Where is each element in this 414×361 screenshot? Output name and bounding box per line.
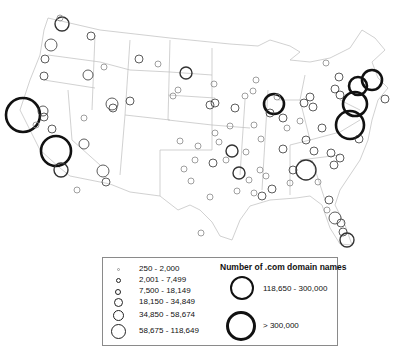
city-circle — [48, 125, 56, 133]
city-circle — [324, 207, 330, 213]
city-circle — [325, 196, 333, 204]
city-circle — [251, 190, 257, 196]
legend-label: 58,675 - 118,649 — [139, 326, 199, 335]
city-circle — [253, 77, 259, 83]
city-circle — [212, 130, 218, 136]
city-circle — [223, 157, 229, 163]
city-circle — [242, 93, 248, 99]
legend-label: > 300,000 — [263, 321, 299, 330]
circle-icon-size-7 — [230, 276, 254, 300]
city-circle — [209, 159, 217, 167]
city-circle — [175, 87, 181, 93]
city-circle — [243, 149, 249, 155]
city-circle — [109, 104, 117, 112]
city-circle — [45, 39, 57, 51]
city-circle — [318, 124, 326, 132]
city-circle — [279, 114, 287, 122]
city-circle — [198, 230, 204, 236]
circle-icon-size-6 — [111, 324, 126, 339]
city-circle — [310, 147, 318, 155]
city-circle — [250, 88, 256, 94]
city-circle — [181, 166, 187, 172]
legend-title: Number of .com domain names — [220, 262, 347, 272]
circle-icon-size-8 — [226, 311, 256, 341]
city-circle — [41, 55, 49, 63]
city-circle — [296, 160, 316, 180]
city-circle — [336, 91, 344, 99]
city-circle — [6, 98, 40, 132]
legend-label: 7,500 - 18,149 — [139, 286, 191, 295]
legend-label: 250 - 2,000 — [139, 264, 179, 273]
city-circle — [188, 178, 194, 184]
city-circle — [335, 73, 343, 81]
city-circle — [126, 97, 134, 105]
legend-label: 118,650 - 300,000 — [263, 284, 327, 293]
city-circle — [226, 145, 238, 157]
legend-item-4: 18,150 - 34,849 — [103, 297, 223, 309]
legend-label: 34,850 - 58,674 — [139, 310, 195, 319]
legend-item-5: 34,850 - 58,674 — [103, 310, 223, 322]
legend: Number of .com domain names 250 - 2,000 … — [102, 257, 338, 346]
city-circle — [216, 139, 222, 145]
city-circle — [40, 113, 48, 121]
city-circle — [81, 115, 87, 121]
city-circle — [257, 167, 263, 173]
city-circle — [329, 212, 341, 224]
city-circle — [87, 32, 95, 40]
state-boundaries — [20, 18, 388, 245]
city-circle — [97, 165, 109, 177]
legend-item-6: 58,675 - 118,649 — [103, 326, 223, 338]
city-circle — [306, 93, 314, 101]
city-circle — [330, 161, 338, 169]
city-circle — [258, 136, 264, 142]
city-circle — [74, 187, 80, 193]
city-circle — [279, 145, 287, 153]
city-circle — [170, 93, 176, 99]
city-circle — [195, 143, 201, 149]
city-circle — [177, 138, 183, 144]
city-circle — [41, 136, 71, 166]
legend-label: 18,150 - 34,849 — [139, 297, 195, 306]
city-circle — [231, 104, 239, 112]
city-circle — [284, 125, 290, 131]
city-circle — [315, 179, 321, 185]
city-circle — [101, 64, 107, 70]
city-circle — [135, 55, 143, 63]
city-circle — [40, 72, 48, 80]
city-circle — [155, 61, 161, 67]
city-circle — [263, 173, 269, 179]
city-circle — [102, 178, 110, 186]
circle-icon-size-5 — [113, 310, 124, 321]
city-circles — [6, 15, 389, 247]
circle-icon-size-4 — [114, 298, 123, 307]
city-circle — [297, 118, 303, 124]
city-circle — [206, 101, 214, 109]
city-circle — [309, 103, 317, 111]
city-circle — [233, 167, 245, 179]
city-circle — [79, 139, 89, 149]
city-circle — [251, 122, 257, 128]
city-circle — [258, 192, 266, 200]
us-map — [0, 0, 414, 250]
city-circle — [234, 188, 240, 194]
circle-icon-size-2 — [116, 278, 121, 283]
circle-icon-size-1 — [117, 268, 120, 271]
legend-label: 2,001 - 7,499 — [139, 275, 186, 284]
city-circle — [300, 99, 308, 107]
city-circle — [268, 185, 276, 193]
city-circle — [207, 194, 213, 200]
city-circle — [192, 157, 198, 163]
city-circle — [323, 60, 329, 66]
city-circle — [83, 70, 93, 80]
circle-icon-size-3 — [115, 289, 121, 295]
city-circle — [381, 95, 389, 103]
city-circle — [246, 177, 252, 183]
